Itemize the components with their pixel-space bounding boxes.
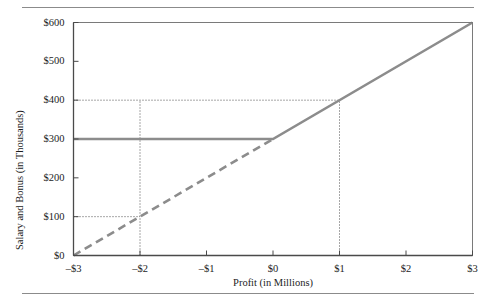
series-line-1 (74, 139, 274, 256)
data-series-layer (74, 23, 473, 256)
x-tick-label-3: $0 (268, 264, 279, 275)
y-tick-label-2: $200 (0, 173, 65, 184)
y-axis-title: Salary and Bonus (in Thousands) (14, 110, 25, 250)
series-line-0 (74, 23, 473, 140)
y-tick-label-4: $400 (0, 95, 65, 106)
y-tick-label-3: $300 (0, 134, 65, 145)
y-tick-label-6: $600 (0, 17, 65, 28)
x-axis-title: Profit (in Millions) (233, 277, 313, 288)
y-tick-label-5: $500 (0, 56, 65, 67)
chart-plot (0, 0, 493, 307)
x-tick-label-1: –$2 (132, 264, 148, 275)
x-tick-label-4: $1 (334, 264, 345, 275)
y-tick-label-1: $100 (0, 211, 65, 222)
x-tick-label-2: –$1 (199, 264, 215, 275)
x-tick-label-6: $3 (467, 264, 478, 275)
x-tick-label-5: $2 (401, 264, 412, 275)
x-tick-label-0: –$3 (66, 264, 82, 275)
figure-container: $0$100$200$300$400$500$600 –$3–$2–$1$0$1… (0, 0, 493, 307)
y-tick-label-0: $0 (0, 250, 65, 261)
